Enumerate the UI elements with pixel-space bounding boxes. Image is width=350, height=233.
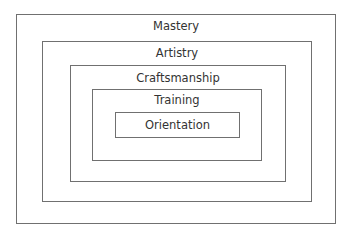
label-craftsmanship: Craftsmanship: [71, 71, 285, 85]
label-orientation: Orientation: [116, 118, 239, 132]
box-orientation: Orientation: [115, 112, 240, 138]
label-artistry: Artistry: [43, 46, 311, 60]
label-mastery: Mastery: [17, 19, 335, 33]
label-training: Training: [93, 93, 261, 107]
